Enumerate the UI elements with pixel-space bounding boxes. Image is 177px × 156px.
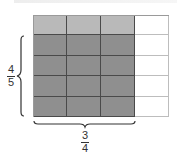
bottom-brace-icon	[34, 121, 135, 127]
left-brace-icon	[17, 36, 24, 116]
horizontal-fraction-label: 3 4	[81, 130, 89, 154]
horizontal-denominator: 4	[82, 143, 88, 154]
vertical-denominator: 5	[8, 77, 14, 88]
vertical-fraction-label: 4 5	[7, 64, 15, 88]
vertical-numerator: 4	[8, 64, 14, 75]
horizontal-numerator: 3	[82, 130, 88, 141]
